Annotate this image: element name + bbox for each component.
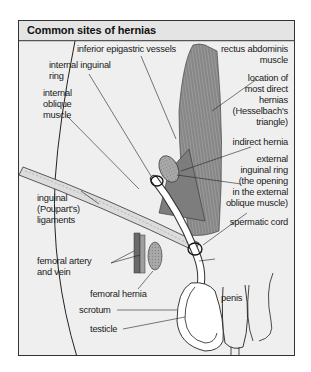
- label-spermatic-cord: spermatic cord: [230, 217, 288, 228]
- label-direct-hernias-line1: location of: [248, 73, 288, 84]
- label-direct-hernias-line4: (Hesselbach's: [233, 106, 289, 117]
- label-internal-inguinal-ring-line2: ring: [49, 71, 64, 82]
- label-internal-oblique-line2: oblique: [43, 99, 72, 110]
- label-external-ring-line3: (the opening: [239, 176, 288, 187]
- label-internal-oblique-line1: internal: [43, 88, 72, 99]
- label-indirect-hernia: indirect hernia: [233, 137, 288, 148]
- label-inferior-epigastric-vessels: inferior epigastric vessels: [77, 44, 176, 55]
- femoral-vein: [140, 235, 145, 273]
- diagram-frame: Common sites of hernias: [18, 20, 295, 356]
- label-inguinal-ligaments-line2: (Poupart's): [37, 204, 80, 215]
- label-direct-hernias-line5: triangle): [256, 117, 288, 128]
- scrotum: [177, 283, 223, 351]
- label-femoral-hernia: femoral hernia: [90, 289, 147, 300]
- femoral-artery: [134, 233, 140, 273]
- right-thigh-outline: [259, 273, 273, 341]
- label-external-ring-line2: inguinal ring: [240, 165, 288, 176]
- label-testicle: testicle: [90, 324, 117, 335]
- label-penis: penis: [221, 293, 242, 304]
- label-direct-hernias-line2: most direct: [245, 84, 288, 95]
- femoral-hernia: [148, 242, 162, 270]
- label-direct-hernias-line3: hernias: [259, 95, 288, 106]
- label-inguinal-ligaments-line1: inguinal: [37, 193, 67, 204]
- label-internal-oblique-line3: muscle: [43, 110, 71, 121]
- label-rectus-abdominis-line2: muscle: [260, 55, 288, 66]
- label-external-ring-line4: in the external: [233, 187, 288, 198]
- label-external-ring-line5: oblique muscle): [226, 198, 288, 209]
- label-external-ring-line1: external: [257, 154, 288, 165]
- label-femoral-artery-line1: femoral artery: [37, 256, 92, 267]
- label-scrotum: scrotum: [79, 305, 111, 316]
- label-rectus-abdominis-line1: rectus abdominis: [221, 44, 288, 55]
- label-femoral-artery-line2: and vein: [37, 267, 71, 278]
- label-internal-inguinal-ring-line1: internal inguinal: [49, 60, 111, 71]
- label-inguinal-ligaments-line3: ligaments: [37, 215, 75, 226]
